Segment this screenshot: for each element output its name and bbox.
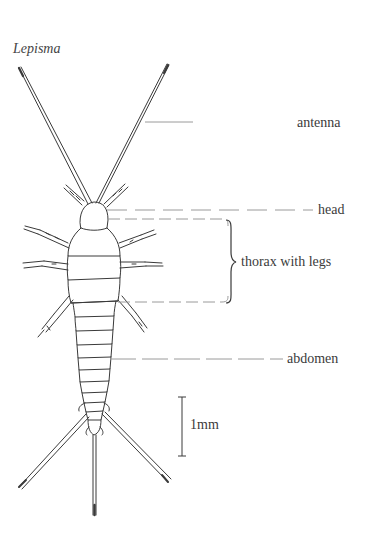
palp-left bbox=[64, 185, 84, 205]
thorax-segment-2 bbox=[67, 256, 121, 280]
leg-left-3 bbox=[38, 296, 73, 337]
silverfish-diagram: Lepisma bbox=[0, 0, 375, 543]
silverfish-illustration bbox=[0, 0, 375, 543]
thorax-brace bbox=[226, 220, 236, 303]
leg-left-1 bbox=[24, 226, 69, 248]
thorax-leader-top bbox=[108, 219, 228, 226]
cercus-right bbox=[102, 412, 171, 482]
thorax-segment-3 bbox=[68, 278, 120, 303]
scale-bar bbox=[178, 397, 186, 456]
leg-right-3 bbox=[118, 296, 147, 332]
label-thorax: thorax with legs bbox=[241, 255, 331, 269]
leg-left-2 bbox=[23, 261, 68, 270]
stylus-right-2 bbox=[100, 427, 103, 435]
label-head: head bbox=[318, 203, 344, 217]
stylus-left-2 bbox=[86, 427, 89, 435]
antenna-right bbox=[96, 64, 169, 203]
label-scale: 1mm bbox=[190, 418, 219, 432]
leg-right-2 bbox=[120, 262, 163, 268]
palp-right bbox=[104, 184, 128, 207]
label-abdomen: abdomen bbox=[287, 352, 338, 366]
head-shape bbox=[80, 202, 108, 230]
leg-right-1 bbox=[119, 230, 156, 248]
antenna-left bbox=[19, 67, 92, 204]
thorax-leader-bottom bbox=[118, 295, 228, 302]
label-antenna: antenna bbox=[297, 116, 341, 130]
cercus-left bbox=[19, 414, 89, 489]
thorax-segment-1 bbox=[68, 228, 120, 256]
abdomen-shape bbox=[71, 301, 118, 435]
terminal-filament bbox=[93, 435, 96, 515]
